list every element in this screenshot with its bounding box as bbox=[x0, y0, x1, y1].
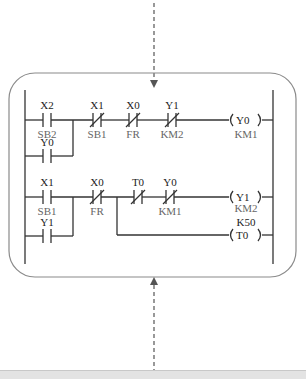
timer-t0-address: T0 bbox=[236, 229, 249, 241]
contact-x1-address: X1 bbox=[40, 176, 53, 188]
flow-arrow-down bbox=[150, 3, 158, 88]
bottom-band bbox=[0, 370, 306, 379]
timer-setting: K50 bbox=[237, 216, 256, 228]
contact-x1-address: X1 bbox=[90, 99, 103, 111]
contact-x0-device: FR bbox=[90, 205, 104, 217]
contact-x0-address: X0 bbox=[90, 176, 104, 188]
rung-1-labels: X2 SB2 X1 SB1 X0 FR Y1 KM2 Y0 KM1 Y0 bbox=[38, 99, 258, 148]
contact-y0-device: KM1 bbox=[158, 205, 181, 217]
branch-y0-address: Y0 bbox=[40, 136, 54, 148]
contact-y1-device: KM2 bbox=[160, 128, 183, 140]
coil-y1-device: KM2 bbox=[234, 202, 257, 214]
contact-y1-address: Y1 bbox=[165, 99, 178, 111]
contact-x1-device: SB1 bbox=[88, 128, 107, 140]
flow-arrow-up bbox=[150, 277, 158, 370]
contact-y0-address: Y0 bbox=[163, 176, 177, 188]
contact-t0-address: T0 bbox=[132, 176, 145, 188]
contact-x0-device: FR bbox=[126, 128, 140, 140]
contact-x0-address: X0 bbox=[126, 99, 140, 111]
branch-y1-address: Y1 bbox=[40, 216, 53, 228]
rung-2-labels: X1 SB1 X0 FR T0 Y0 KM1 Y1 KM2 K50 T0 Y1 bbox=[38, 176, 258, 241]
coil-y0-address: Y0 bbox=[236, 114, 250, 126]
contact-x2-address: X2 bbox=[40, 99, 53, 111]
coil-y0-device: KM1 bbox=[234, 128, 257, 140]
